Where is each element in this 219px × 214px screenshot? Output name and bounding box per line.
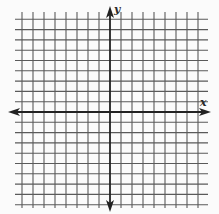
grid — [0, 0, 219, 214]
grid-lines — [15, 12, 208, 208]
x-axis-label: x — [200, 97, 207, 108]
y-axis-label: y — [114, 4, 120, 15]
axes — [8, 6, 211, 212]
coordinate-plane: y x — [0, 0, 219, 214]
